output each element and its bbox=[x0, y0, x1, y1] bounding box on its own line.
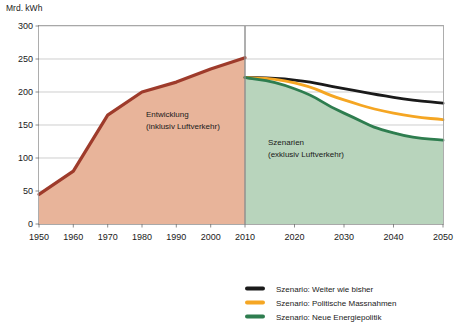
x-tick-label-2030: 2030 bbox=[334, 232, 354, 242]
chart-canvas: Mrd. kWh 050100150200250300 195019601970… bbox=[0, 0, 456, 328]
chart-legend: Szenario: Weiter wie bisher Szenario: Po… bbox=[245, 285, 397, 322]
legend-swatch-black bbox=[245, 287, 265, 291]
y-axis-unit-label: Mrd. kWh bbox=[6, 3, 43, 13]
y-tick-label-300: 300 bbox=[18, 21, 33, 31]
x-tick-label-2000: 2000 bbox=[201, 232, 221, 242]
legend-item-neue-energiepolitik[interactable]: Szenario: Neue Energiepolitik bbox=[245, 313, 382, 322]
x-tick-label-1960: 1960 bbox=[63, 232, 83, 242]
y-tick-label-0: 0 bbox=[28, 219, 33, 229]
legend-label-0: Szenario: Weiter wie bisher bbox=[276, 285, 374, 294]
area-entwicklung-inklusiv-luftverkehr bbox=[39, 58, 245, 224]
y-axis-ticks: 050100150200250300 bbox=[18, 21, 39, 229]
plot-area-fills bbox=[39, 58, 443, 224]
legend-swatch-green bbox=[245, 315, 265, 319]
y-tick-label-50: 50 bbox=[23, 186, 33, 196]
legend-label-2: Szenario: Neue Energiepolitik bbox=[276, 313, 382, 322]
annotation-szenarien-line1: Szenarien bbox=[268, 138, 304, 147]
x-tick-label-2010: 2010 bbox=[235, 232, 255, 242]
annotation-entwicklung-line1: Entwicklung bbox=[146, 110, 189, 119]
y-tick-label-200: 200 bbox=[18, 87, 33, 97]
y-tick-label-100: 100 bbox=[18, 153, 33, 163]
legend-swatch-orange bbox=[245, 301, 265, 305]
x-tick-label-1970: 1970 bbox=[98, 232, 118, 242]
annotation-szenarien-line2: (exklusiv Luftverkehr) bbox=[268, 150, 344, 159]
x-tick-label-2040: 2040 bbox=[383, 232, 403, 242]
x-axis-ticks: 1950196019701980199020002010202020302040… bbox=[29, 224, 453, 242]
legend-item-weiter-wie-bisher[interactable]: Szenario: Weiter wie bisher bbox=[245, 285, 374, 294]
legend-label-1: Szenario: Politische Massnahmen bbox=[276, 299, 397, 308]
y-tick-label-250: 250 bbox=[18, 54, 33, 64]
x-tick-label-2020: 2020 bbox=[284, 232, 304, 242]
x-tick-label-1950: 1950 bbox=[29, 232, 49, 242]
x-tick-label-1980: 1980 bbox=[132, 232, 152, 242]
legend-item-politische-massnahmen[interactable]: Szenario: Politische Massnahmen bbox=[245, 299, 397, 308]
y-tick-label-150: 150 bbox=[18, 120, 33, 130]
x-tick-label-1990: 1990 bbox=[166, 232, 186, 242]
energy-scenarios-chart: Mrd. kWh 050100150200250300 195019601970… bbox=[0, 0, 456, 328]
annotation-entwicklung-line2: (inklusiv Luftverkehr) bbox=[146, 122, 220, 131]
x-tick-label-2050: 2050 bbox=[433, 232, 453, 242]
